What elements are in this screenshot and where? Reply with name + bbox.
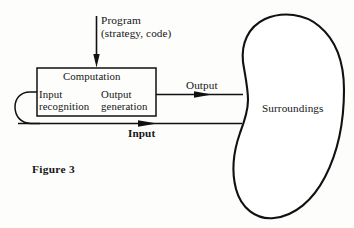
output-generation-line1: Output bbox=[101, 88, 148, 100]
output-flow-label: Output bbox=[186, 79, 218, 92]
output-generation-line2: generation bbox=[101, 100, 148, 112]
input-flow-arrowhead bbox=[138, 120, 157, 127]
program-arrow-head bbox=[93, 54, 99, 68]
program-input-label: Program (strategy, code) bbox=[101, 14, 171, 39]
input-recognition-label: Input recognition bbox=[39, 88, 89, 112]
surroundings-blob-shape bbox=[233, 15, 344, 219]
output-generation-label: Output generation bbox=[101, 88, 148, 112]
program-label-line1: Program bbox=[101, 14, 171, 27]
computation-box-title: Computation bbox=[63, 70, 120, 82]
input-recognition-line1: Input bbox=[39, 88, 89, 100]
input-recognition-line2: recognition bbox=[39, 100, 89, 112]
surroundings-label: Surroundings bbox=[262, 102, 324, 115]
input-flow-label: Input bbox=[128, 127, 155, 140]
figure-3-diagram: Program (strategy, code) Computation Inp… bbox=[0, 0, 354, 228]
output-flow-arrowhead bbox=[194, 91, 212, 97]
program-label-line2: (strategy, code) bbox=[101, 27, 171, 40]
figure-caption: Figure 3 bbox=[32, 163, 75, 176]
